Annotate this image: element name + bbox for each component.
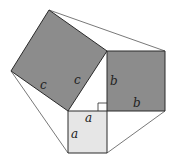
label-c-left: c bbox=[40, 78, 47, 92]
label-c-right: c bbox=[74, 73, 81, 87]
connector-bottom-right bbox=[107, 111, 165, 153]
label-a-left: a bbox=[71, 127, 78, 141]
label-b-left: b bbox=[110, 74, 118, 88]
right-angle-marker bbox=[98, 103, 107, 111]
pythagorean-diagram: c c b b a a bbox=[0, 0, 181, 162]
label-a-top: a bbox=[85, 111, 92, 125]
diagram-canvas: c c b b a a bbox=[0, 0, 181, 162]
label-b-bottom: b bbox=[133, 96, 141, 110]
